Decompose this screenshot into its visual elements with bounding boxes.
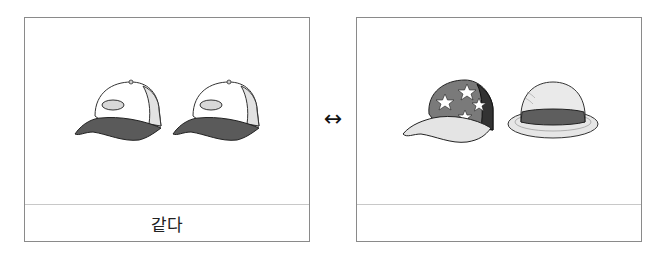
double-arrow-icon: ↔ <box>312 104 354 134</box>
star-cap-icon <box>401 78 501 146</box>
comparison-card-left: 같다 <box>24 17 310 242</box>
picture-area-right <box>357 18 641 204</box>
comparison-card-right <box>356 17 642 242</box>
card-caption <box>357 205 641 241</box>
baseball-cap-icon <box>73 78 169 144</box>
card-caption: 같다 <box>25 205 309 241</box>
picture-area-left <box>25 18 309 204</box>
bowler-hat-icon <box>505 78 601 142</box>
baseball-cap-icon <box>171 78 267 144</box>
